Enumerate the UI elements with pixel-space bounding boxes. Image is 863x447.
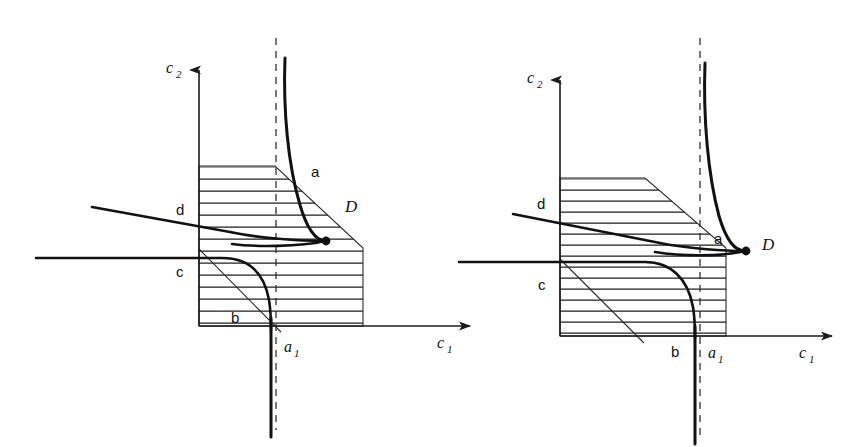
label-b-left: b — [231, 309, 239, 326]
label-region-D-right: D — [761, 235, 775, 254]
asymptote-label-sub-left: 1 — [294, 347, 300, 359]
label-a-right: a — [714, 230, 723, 247]
label-d-left: d — [176, 201, 184, 218]
x-axis-label-left: c — [437, 334, 444, 351]
x-axis-label-sub-left: 1 — [447, 343, 453, 355]
label-a-left: a — [311, 163, 320, 180]
endpoint-dot-right — [742, 247, 751, 256]
curve-a-left — [285, 58, 325, 241]
figure-root: a b c d D c 2 c 1 a 1 — [0, 0, 863, 447]
y-axis-label-sub-left: 2 — [176, 68, 182, 80]
inner-boundary-right — [560, 259, 644, 343]
left-diagram: a b c d D c 2 c 1 a 1 — [36, 38, 470, 437]
right-diagram: a b c d D c 2 c 1 a 1 — [459, 38, 832, 444]
curve-a-right — [705, 63, 745, 251]
curve-d-left — [92, 207, 325, 241]
y-axis-label-left: c — [166, 59, 173, 76]
label-c-right: c — [538, 276, 546, 293]
y-axis-label-right: c — [527, 69, 534, 86]
label-b-right: b — [671, 343, 679, 360]
x-axis-label-right: c — [799, 344, 806, 361]
asymptote-label-left: a — [284, 338, 292, 355]
endpoint-dot-left — [322, 237, 331, 246]
x-axis-label-sub-right: 1 — [809, 353, 815, 365]
label-c-left: c — [176, 263, 184, 280]
label-region-D-left: D — [344, 197, 358, 216]
asymptote-label-right: a — [708, 344, 716, 361]
asymptote-label-sub-right: 1 — [718, 353, 724, 365]
y-axis-label-sub-right: 2 — [537, 78, 543, 90]
diagram-svg: a b c d D c 2 c 1 a 1 — [0, 0, 863, 447]
label-d-right: d — [537, 195, 545, 212]
region-D-outline-right — [560, 178, 726, 336]
